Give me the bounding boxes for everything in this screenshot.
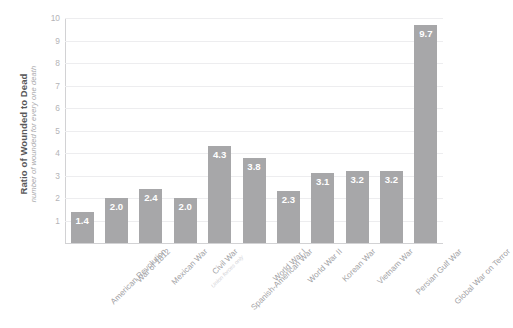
y-axis-title: Ratio of Wounded to Dead number of wound… [11, 26, 45, 241]
y-axis-tick-label: 7 [55, 81, 60, 89]
x-axis-tick-label-text: Vietnam War [376, 247, 415, 286]
bar[interactable]: 3.2 [380, 171, 403, 243]
y-axis-tick-label: 8 [55, 59, 60, 67]
plot-area: 12345678910 1.42.02.42.04.33.82.33.13.23… [65, 18, 443, 243]
bar-value-label: 2.0 [174, 201, 197, 212]
bar-value-label: 2.3 [277, 194, 300, 205]
bar[interactable]: 2.0 [105, 198, 128, 243]
bar-value-label: 2.4 [139, 192, 162, 203]
bar[interactable]: 2.3 [277, 191, 300, 243]
y-axis-tick-label: 2 [55, 194, 60, 202]
bar-value-label: 3.2 [380, 174, 403, 185]
x-axis-tick-label: War of 1812 [134, 247, 172, 285]
bar-value-label: 3.2 [346, 174, 369, 185]
bar[interactable]: 1.4 [71, 212, 94, 244]
y-axis-tick-label: 1 [55, 216, 60, 224]
x-axis-tick-label: Korean War [340, 247, 377, 284]
bar-value-label: 1.4 [71, 215, 94, 226]
bar-value-label: 2.0 [105, 201, 128, 212]
y-axis-tick-label: 5 [55, 126, 60, 134]
bar[interactable]: 3.8 [243, 158, 266, 244]
x-axis-tick-label-text: War of 1812 [134, 247, 171, 284]
x-axis-tick-label-text: Persian Gulf War [414, 247, 464, 297]
bar[interactable]: 2.0 [174, 198, 197, 243]
y-axis-tick-label: 10 [51, 14, 60, 22]
bar-value-label: 4.3 [208, 149, 231, 160]
y-axis-tick-label: 6 [55, 104, 60, 112]
x-axis-tick-label: Vietnam War [376, 247, 416, 287]
bar[interactable]: 3.2 [346, 171, 369, 243]
bar[interactable]: 9.7 [414, 25, 437, 243]
bar[interactable]: 4.3 [208, 146, 231, 243]
x-axis-tick-label: Persian Gulf War [414, 247, 464, 297]
x-axis-tick-label: Mexican War [170, 247, 210, 287]
y-axis-tick-label: 3 [55, 171, 60, 179]
bar[interactable]: 3.1 [311, 173, 334, 243]
y-axis-title-main: Ratio of Wounded to Dead [18, 65, 29, 202]
y-axis-tick-label: 4 [55, 149, 60, 157]
y-axis-tick-label: 9 [55, 36, 60, 44]
x-axis-tick-label-text: Mexican War [170, 247, 210, 287]
bar[interactable]: 2.4 [139, 189, 162, 243]
x-axis-labels: American RevolutionWar of 1812Mexican Wa… [65, 243, 443, 328]
x-axis-tick-label-text: Korean War [340, 247, 377, 284]
y-axis-title-subtitle: number of wounded for every one death [29, 65, 39, 202]
bar-value-label: 9.7 [414, 28, 437, 39]
bar-value-label: 3.8 [243, 161, 266, 172]
bar-value-label: 3.1 [311, 176, 334, 187]
bars-layer: 1.42.02.42.04.33.82.33.13.23.29.7 [65, 18, 443, 243]
